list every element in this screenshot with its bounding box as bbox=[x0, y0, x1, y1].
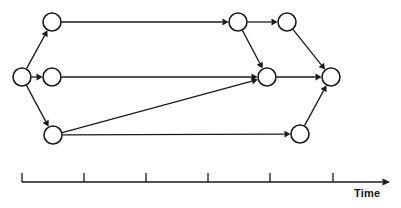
edge-start-to-top-left bbox=[27, 30, 48, 68]
nodes-layer bbox=[13, 13, 340, 144]
edge-bottom-right-to-end bbox=[305, 85, 327, 125]
edge-middle-left-to-center bbox=[62, 74, 258, 81]
edge-bottom-left-to-center bbox=[62, 78, 258, 133]
node-top-left[interactable] bbox=[43, 13, 61, 31]
time-axis-arrow-icon bbox=[383, 178, 391, 185]
node-middle-left[interactable] bbox=[43, 68, 61, 86]
edge-center-to-end bbox=[277, 74, 322, 81]
edge-top-mid-to-top-right bbox=[248, 19, 278, 26]
edge-top-left-to-top-mid bbox=[62, 19, 229, 26]
edges-layer bbox=[26, 19, 326, 138]
arrow-head-icon bbox=[223, 19, 229, 26]
arrow-head-icon bbox=[37, 74, 43, 81]
edge-start-to-bottom-left bbox=[26, 85, 48, 126]
node-bottom-right[interactable] bbox=[291, 125, 309, 143]
graph-diagram bbox=[0, 0, 401, 208]
edge-top-mid-to-center bbox=[242, 30, 262, 68]
edge-start-to-middle-left bbox=[32, 74, 43, 81]
arrow-head-icon bbox=[251, 78, 258, 85]
edge-bottom-left-to-bottom-right bbox=[62, 131, 290, 138]
node-top-mid[interactable] bbox=[229, 13, 247, 31]
arrow-head-icon bbox=[272, 19, 278, 26]
node-start[interactable] bbox=[13, 68, 31, 86]
time-axis bbox=[22, 173, 390, 186]
node-top-right[interactable] bbox=[278, 13, 296, 31]
node-center[interactable] bbox=[258, 68, 276, 86]
figure-canvas: Time bbox=[0, 0, 401, 208]
arrow-head-icon bbox=[316, 74, 322, 81]
time-axis-label: Time bbox=[354, 187, 380, 199]
arrow-head-icon bbox=[284, 131, 290, 138]
node-bottom-left[interactable] bbox=[44, 126, 62, 144]
edge-top-right-to-end bbox=[293, 29, 325, 69]
node-end[interactable] bbox=[322, 68, 340, 86]
